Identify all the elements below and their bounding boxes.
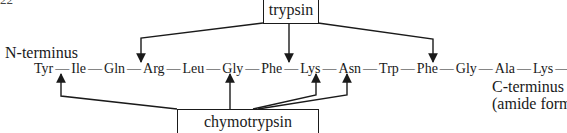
peptide-bond: — [86, 62, 104, 76]
amide-form-line: (amide form) [492, 95, 567, 112]
residue: Leu [183, 62, 205, 76]
chymotrypsin-box: chymotrypsin [177, 109, 319, 133]
n-terminus-label: N-terminus [5, 45, 78, 61]
peptide-bond: — [321, 62, 339, 76]
trypsin-arrow-arg-leu [141, 23, 263, 62]
peptide-bond: — [399, 62, 417, 76]
residue: Phe [261, 62, 282, 76]
peptide-bond: — [243, 62, 261, 76]
peptide-chain: Tyr—Ile—Gln—Arg—Leu—Gly—Phe—Lys—Asn—Trp—… [34, 62, 567, 77]
peptide-bond: — [515, 62, 533, 76]
c-terminus-label: C-terminus (amide form) [492, 78, 567, 112]
peptide-bond: — [165, 62, 183, 76]
residue: Trp [379, 62, 399, 76]
chymotrypsin-arrow-tyr-ile [61, 74, 177, 109]
trypsin-arrow-lys-gly [318, 23, 433, 62]
c-terminus-line: C-terminus [492, 78, 567, 95]
residue: Ile [71, 62, 86, 76]
trypsin-box: trypsin [263, 0, 319, 24]
residue: Gly [456, 62, 477, 76]
residue: Lys [533, 62, 553, 76]
residue: Asn [339, 62, 362, 76]
residue: Gln [104, 62, 125, 76]
peptide-bond: — [438, 62, 456, 76]
chymotrypsin-arrow-trp-phe [253, 74, 316, 109]
chymotrypsin-arrow-phe-gly [258, 74, 347, 109]
chymotrypsin-label: chymotrypsin [204, 113, 292, 130]
peptide-bond: — [53, 62, 71, 76]
protease-cleavage-diagram: 22 trypsin N-terminus Tyr—Ile—Gln—Arg—Le… [0, 0, 567, 133]
peptide-bond: — [204, 62, 222, 76]
peptide-bond: — [125, 62, 143, 76]
residue: Ala [495, 62, 515, 76]
residue: Arg [143, 62, 165, 76]
peptide-bond: — [282, 62, 300, 76]
peptide-bond: — [553, 62, 567, 76]
peptide-bond: — [477, 62, 495, 76]
residue: Gly [222, 62, 243, 76]
residue: Tyr [34, 62, 53, 76]
trypsin-label: trypsin [269, 1, 313, 18]
residue: Lys [300, 62, 320, 76]
peptide-bond: — [361, 62, 379, 76]
residue: Phe [417, 62, 438, 76]
